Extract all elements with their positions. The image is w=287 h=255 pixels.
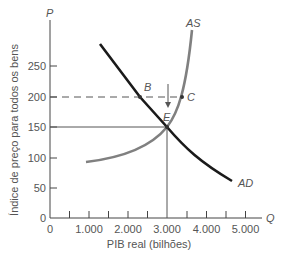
y-axis-symbol: P (46, 7, 54, 19)
svg-text:50: 50 (34, 182, 46, 194)
svg-text:1.000: 1.000 (75, 223, 103, 235)
svg-text:250: 250 (28, 60, 46, 72)
svg-text:100: 100 (28, 152, 46, 164)
point-b (138, 95, 142, 99)
svg-text:2.000: 2.000 (114, 223, 142, 235)
x-ticks (70, 211, 246, 218)
svg-text:150: 150 (28, 121, 46, 133)
point-e (165, 125, 169, 129)
y-axis-title: Índice de preço para todos os bens (8, 44, 20, 216)
x-axis-symbol: Q (266, 212, 275, 224)
svg-text:0: 0 (47, 223, 53, 235)
x-axis-title: PIB real (bilhões) (107, 238, 191, 250)
arrow-down-icon (165, 102, 171, 108)
svg-text:3.000: 3.000 (153, 223, 181, 235)
point-c (180, 95, 184, 99)
y-tick-labels: 0 50 100 150 200 250 (28, 60, 46, 224)
point-c-label: C (187, 91, 195, 103)
point-e-label: E (163, 111, 171, 123)
as-curve-label: AS (185, 17, 201, 29)
ad-curve-label: AD (237, 177, 253, 189)
point-b-label: B (144, 81, 151, 93)
svg-text:4.000: 4.000 (193, 223, 221, 235)
svg-text:0: 0 (40, 212, 46, 224)
svg-text:5.000: 5.000 (232, 223, 260, 235)
ad-as-chart: P Q 0 50 100 150 200 250 0 1.000 2.000 3… (0, 0, 287, 255)
x-tick-labels: 0 1.000 2.000 3.000 4.000 5.000 (47, 223, 259, 235)
svg-text:200: 200 (28, 91, 46, 103)
